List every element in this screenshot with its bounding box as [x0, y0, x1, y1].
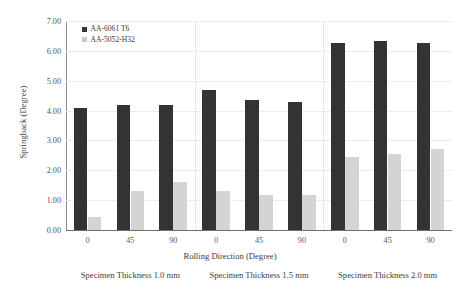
legend-item-aa-6061-t6: AA-6061 T6 [82, 24, 135, 35]
bar-aa-5052-h32-90 [431, 149, 445, 230]
bar-aa-5052-h32-90 [173, 182, 187, 230]
x-axis-tick-label: 45 [255, 236, 263, 245]
bar-aa-6061-t6-90 [159, 105, 173, 230]
panel-separator [323, 21, 324, 230]
y-axis-tick-label: 0.00 [47, 226, 61, 235]
gridline [66, 21, 452, 22]
x-axis-tick-label: 90 [298, 236, 306, 245]
bar-aa-5052-h32-45 [131, 191, 145, 230]
x-axis-tick-label: 90 [426, 236, 434, 245]
bar-aa-6061-t6-45 [117, 105, 131, 230]
bar-aa-5052-h32-0 [345, 157, 359, 230]
legend-label-series-1: AA-5052-H32 [91, 35, 135, 46]
y-axis-tick-label: 3.00 [47, 136, 61, 145]
bar-aa-5052-h32-0 [216, 191, 230, 230]
bar-aa-6061-t6-45 [374, 41, 388, 230]
legend-item-aa-5052-h32: AA-5052-H32 [82, 35, 135, 46]
y-axis-tick-label: 6.00 [47, 46, 61, 55]
plot-area: 0.001.002.003.004.005.006.007.00 [66, 21, 452, 230]
group-label: Specimen Thickness 1.0 mm [81, 270, 180, 280]
legend-swatch-icon-series-1 [82, 37, 87, 42]
bar-aa-6061-t6-45 [245, 100, 259, 230]
y-axis-tick-label: 4.00 [47, 106, 61, 115]
bar-aa-6061-t6-0 [74, 108, 88, 230]
x-axis-tick-label: 0 [85, 236, 89, 245]
y-axis-line [66, 21, 67, 230]
gridline [66, 51, 452, 52]
x-axis-tick-label: 0 [343, 236, 347, 245]
legend-swatch-icon-series-0 [82, 27, 87, 32]
x-axis-line [66, 230, 452, 231]
springback-bar-chart: Springback (Degree) 0.001.002.003.004.00… [0, 0, 460, 299]
legend-label-series-0: AA-6061 T6 [91, 24, 130, 35]
bar-aa-6061-t6-0 [202, 90, 216, 230]
group-label: Specimen Thickness 1.5 mm [209, 270, 308, 280]
y-axis-tick-label: 1.00 [47, 196, 61, 205]
chart-legend: AA-6061 T6 AA-5052-H32 [82, 24, 135, 45]
y-axis-tick-label: 5.00 [47, 76, 61, 85]
x-axis-tick-label: 0 [214, 236, 218, 245]
panel-separator [195, 21, 196, 230]
bar-aa-5052-h32-90 [302, 195, 316, 230]
x-axis-tick-label: 90 [169, 236, 177, 245]
bar-aa-6061-t6-0 [331, 43, 345, 230]
x-axis-tick-label: 45 [384, 236, 392, 245]
y-axis-title: Springback (Degree) [18, 42, 28, 202]
x-axis-tick-label: 45 [126, 236, 134, 245]
bar-aa-6061-t6-90 [288, 102, 302, 230]
x-axis-title: Rolling Direction (Degree) [0, 251, 460, 261]
y-axis-tick-label: 2.00 [47, 166, 61, 175]
y-axis-tick-label: 7.00 [47, 17, 61, 26]
bar-aa-5052-h32-45 [259, 195, 273, 230]
bar-aa-5052-h32-0 [88, 217, 102, 230]
gridline [66, 81, 452, 82]
bar-aa-5052-h32-45 [388, 154, 402, 230]
group-label: Specimen Thickness 2.0 mm [338, 270, 437, 280]
bar-aa-6061-t6-90 [417, 43, 431, 230]
